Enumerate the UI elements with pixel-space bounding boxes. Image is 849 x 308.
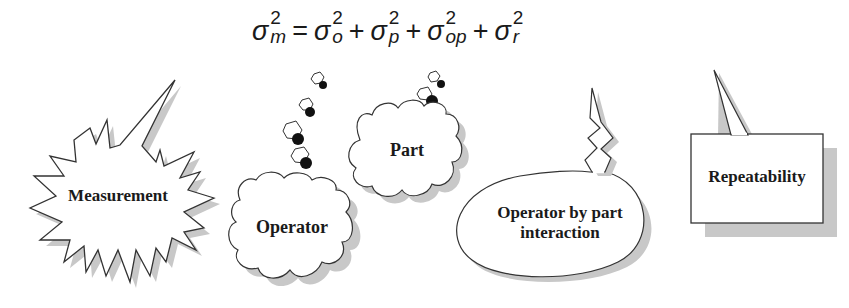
equation-lhs: σ 2m xyxy=(252,8,286,48)
interaction-label-line2: interaction xyxy=(480,223,640,243)
plus-sign: + xyxy=(467,8,495,48)
subscript: o xyxy=(332,27,343,46)
equation-term-part: σ 2p xyxy=(371,8,400,48)
equation-term-repeatability: σ 2r xyxy=(494,8,523,48)
sigma-symbol: σ xyxy=(314,8,330,48)
superscript: 2 xyxy=(513,8,524,27)
part-thought-dots xyxy=(417,71,445,107)
interaction-label: Operator by part interaction xyxy=(480,203,640,243)
sigma-symbol: σ xyxy=(427,8,443,48)
measurement-label: Measurement xyxy=(58,186,178,206)
repeatability-box-shape xyxy=(691,70,837,237)
interaction-label-line1: Operator by part xyxy=(480,203,640,223)
plus-sign: + xyxy=(399,8,427,48)
equals-sign: = xyxy=(286,8,314,48)
sigma-symbol: σ xyxy=(252,8,268,48)
sigma-symbol: σ xyxy=(371,8,387,48)
diagram-canvas: σ 2m = σ 2o + σ 2p + σ 2op + σ 2r Measur… xyxy=(0,0,849,308)
operator-thought-dots xyxy=(283,72,327,169)
interaction-oval-shape xyxy=(457,88,652,282)
plus-sign: + xyxy=(343,8,371,48)
equation-term-interaction: σ 2op xyxy=(427,8,466,48)
measurement-explosion-shape xyxy=(30,80,220,288)
superscript: 2 xyxy=(446,8,467,27)
repeatability-label: Repeatability xyxy=(691,167,823,187)
superscript: 2 xyxy=(270,8,286,27)
subscript: m xyxy=(270,27,286,46)
variance-equation: σ 2m = σ 2o + σ 2p + σ 2op + σ 2r xyxy=(252,8,523,58)
subscript: p xyxy=(389,27,400,46)
equation-term-operator: σ 2o xyxy=(314,8,343,48)
part-label: Part xyxy=(372,140,442,161)
operator-label: Operator xyxy=(246,217,338,238)
subscript: r xyxy=(513,27,524,46)
superscript: 2 xyxy=(332,8,343,27)
superscript: 2 xyxy=(389,8,400,27)
sigma-symbol: σ xyxy=(494,8,510,48)
subscript: op xyxy=(446,27,467,46)
